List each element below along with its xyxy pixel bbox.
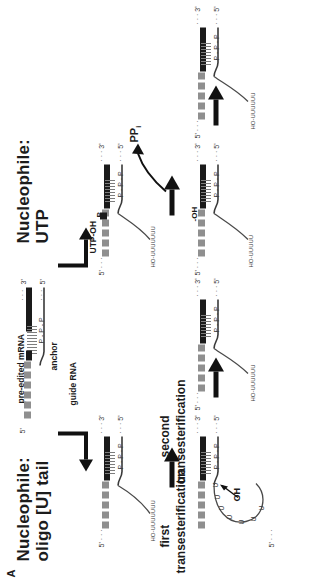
figure-inner: A Nucleophile: oligo [U] tail Nucleophil… xyxy=(0,0,312,583)
mrna-3prime-R3: · · · 3' xyxy=(194,6,201,24)
phosphate-chain-R3: P - P - P xyxy=(213,34,220,60)
utail-inserted-R3 xyxy=(214,76,248,101)
grna-5prime-start-R3: 5' · · · xyxy=(194,120,201,138)
grna-blocks-R3 xyxy=(198,72,205,119)
utail-seq-R3: HO-UUUUUU xyxy=(250,92,256,129)
figure-canvas: A Nucleophile: oligo [U] tail Nucleophil… xyxy=(0,0,312,583)
grna-5prime-R3: · · · 5' xyxy=(213,6,220,24)
right-product-graphic xyxy=(0,0,312,583)
